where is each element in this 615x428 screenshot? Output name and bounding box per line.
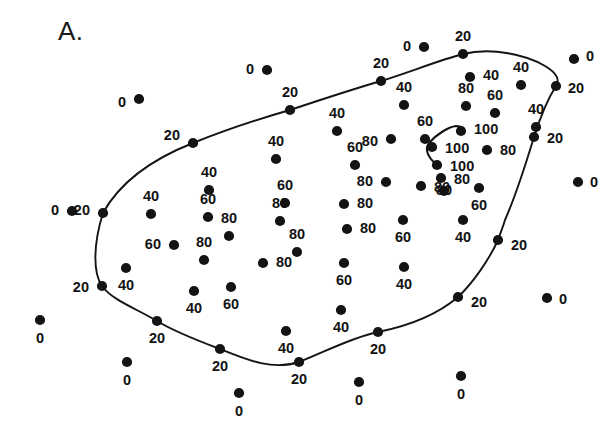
data-point: 40 <box>528 101 544 132</box>
data-point-value-label: 0 <box>246 61 254 77</box>
data-point-value-label: 60 <box>471 197 487 213</box>
data-point: 40 <box>118 263 134 293</box>
data-point-marker <box>458 215 468 225</box>
data-point-marker <box>531 122 541 132</box>
data-point: 20 <box>149 316 165 346</box>
data-point-marker <box>386 134 396 144</box>
data-point-value-label: 80 <box>357 173 373 189</box>
data-point: 0 <box>354 377 364 408</box>
data-point-value-label: 20 <box>149 330 165 346</box>
data-point-marker <box>354 377 364 387</box>
data-point: 60 <box>145 236 179 252</box>
data-point-value-label: 0 <box>123 372 131 388</box>
data-point: 40 <box>513 59 529 90</box>
data-point-value-label: 60 <box>336 272 352 288</box>
data-point-marker <box>188 138 198 148</box>
data-point-marker <box>399 262 409 272</box>
data-point-marker <box>199 255 209 265</box>
data-point-value-label: 80 <box>196 234 212 250</box>
data-point-value-label: 0 <box>586 48 594 64</box>
data-point: 0 <box>403 38 429 54</box>
data-point-marker <box>262 65 272 75</box>
data-point-marker <box>542 293 552 303</box>
data-point-marker <box>189 286 199 296</box>
data-point-value-label: 80 <box>272 195 288 211</box>
data-point: 40 <box>268 133 284 164</box>
data-point-marker <box>169 240 179 250</box>
data-point-value-label: 40 <box>333 319 349 335</box>
data-point: 80 <box>362 133 396 149</box>
data-point-value-label: 0 <box>457 386 465 402</box>
data-point-marker <box>281 326 291 336</box>
data-point-value-label: 60 <box>200 191 216 207</box>
data-point-value-label: 0 <box>118 94 126 110</box>
data-point-marker <box>97 281 107 291</box>
data-point-value-label: 60 <box>395 229 411 245</box>
data-point: 20 <box>455 28 471 59</box>
data-point-value-label: 40 <box>513 59 529 75</box>
data-point-marker <box>436 173 446 183</box>
data-point-value-label: 20 <box>511 237 527 253</box>
data-point-marker <box>339 258 349 268</box>
data-point-marker <box>203 212 213 222</box>
data-point: 80 <box>196 234 212 265</box>
data-point: 80 <box>289 226 305 257</box>
data-point-marker <box>234 388 244 398</box>
data-point-value-label: 80 <box>458 80 474 96</box>
data-point: 60 <box>395 215 411 245</box>
data-point-marker <box>258 258 268 268</box>
data-point-marker <box>529 132 539 142</box>
data-point: 100 <box>456 121 498 137</box>
data-point-value-label: 40 <box>455 229 471 245</box>
data-point-value-label: 20 <box>212 358 228 374</box>
data-point-value-label: 40 <box>329 105 345 121</box>
data-point-value-label: 60 <box>145 236 161 252</box>
data-point: 40 <box>396 262 412 292</box>
data-point-marker <box>551 81 561 91</box>
data-point: 20 <box>74 202 108 218</box>
data-point-value-label: 60 <box>417 113 433 129</box>
data-point: 0 <box>573 174 598 190</box>
data-point-marker <box>350 160 360 170</box>
data-point-value-label: 100 <box>450 158 474 174</box>
data-point-marker <box>458 49 468 59</box>
data-point: 80 <box>221 210 237 241</box>
data-point-value-label: 20 <box>568 80 584 96</box>
data-point: 60 <box>487 87 503 118</box>
data-point-value-label: 40 <box>186 300 202 316</box>
data-point: 0 <box>122 357 132 388</box>
data-point-marker <box>419 42 429 52</box>
data-point-marker <box>461 101 471 111</box>
data-point-value-label: 100 <box>474 121 498 137</box>
data-point-marker <box>474 183 484 193</box>
data-point-marker <box>339 199 349 209</box>
data-point-value-label: 80 <box>357 195 373 211</box>
data-point-marker <box>573 177 583 187</box>
data-point-value-label: 0 <box>355 392 363 408</box>
data-point-value-label: 40 <box>268 133 284 149</box>
data-point: 80 <box>339 195 373 211</box>
data-point: 20 <box>551 80 584 96</box>
data-point-value-label: 60 <box>487 87 503 103</box>
data-point-value-label: 20 <box>164 127 180 143</box>
data-point: 20 <box>212 344 228 374</box>
data-point-marker <box>121 263 131 273</box>
data-point-marker <box>275 216 285 226</box>
data-point: 60 <box>417 113 433 144</box>
data-point-marker <box>152 316 162 326</box>
data-point-value-label: 0 <box>235 403 243 419</box>
data-point-marker <box>336 305 346 315</box>
data-point: 60 <box>336 258 352 288</box>
data-point-marker <box>482 145 492 155</box>
data-point-value-label: 60 <box>223 296 239 312</box>
data-point: 40 <box>278 326 294 356</box>
data-point-marker <box>569 54 579 64</box>
data-point-marker <box>432 160 442 170</box>
data-point-value-label: 60 <box>347 139 363 155</box>
data-point-marker <box>215 344 225 354</box>
data-point-value-label: 80 <box>500 142 516 158</box>
data-point-value-label: 0 <box>590 174 598 190</box>
data-point-value-label: 60 <box>277 177 293 193</box>
data-point: 20 <box>73 279 107 295</box>
data-point-marker <box>134 94 144 104</box>
